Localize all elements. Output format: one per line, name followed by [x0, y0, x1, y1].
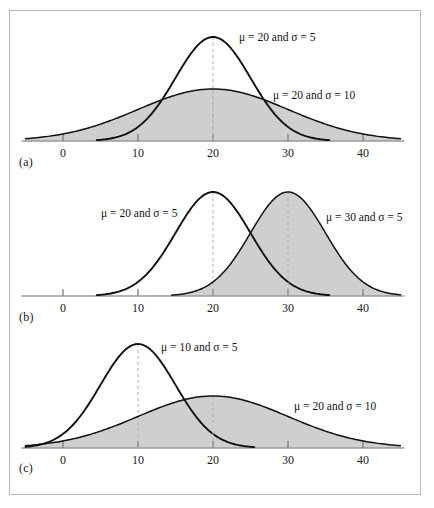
shaded-area-c-1	[26, 396, 401, 448]
x-tick-label-b-0: 0	[60, 301, 66, 315]
panel-letter-b: (b)	[19, 310, 34, 325]
x-tick-label-b-1: 10	[132, 301, 144, 315]
x-tick-label-a-4: 40	[357, 146, 369, 160]
x-tick-label-c-4: 40	[357, 453, 369, 467]
x-tick-label-c-1: 10	[132, 453, 144, 467]
panel-letter-c: (c)	[19, 461, 33, 476]
x-tick-label-c-0: 0	[60, 453, 66, 467]
x-tick-label-c-3: 30	[282, 453, 294, 467]
x-tick-label-c-2: 20	[207, 453, 219, 467]
curve-outline-b-1	[172, 192, 401, 295]
x-tick-label-b-2: 20	[207, 301, 219, 315]
curve-annotation-a-1: μ = 20 and σ = 10	[273, 89, 355, 102]
x-tick-label-a-3: 30	[282, 146, 294, 160]
x-tick-label-b-4: 40	[357, 301, 369, 315]
x-tick-label-a-2: 20	[207, 146, 219, 160]
curve-annotation-c-0: μ = 10 and σ = 5	[161, 341, 238, 354]
panel-canvas-b: 010203040μ = 20 and σ = 5μ = 30 and σ = …	[10, 11, 422, 496]
figure-frame: 010203040μ = 20 and σ = 5μ = 20 and σ = …	[9, 10, 421, 495]
x-tick-label-a-1: 10	[132, 146, 144, 160]
curve-outline-a-1	[26, 89, 401, 139]
shaded-area-b-1	[26, 192, 401, 296]
curve-outline-b-0	[97, 192, 330, 295]
panel-canvas-a: 010203040μ = 20 and σ = 5μ = 20 and σ = …	[10, 11, 422, 496]
curve-annotation-b-0: μ = 20 and σ = 5	[101, 207, 178, 220]
curve-annotation-a-0: μ = 20 and σ = 5	[239, 31, 316, 44]
x-tick-label-b-3: 30	[282, 301, 294, 315]
curve-annotation-b-1: μ = 30 and σ = 5	[326, 211, 403, 224]
panel-letter-a: (a)	[19, 155, 33, 170]
curve-outline-c-1	[26, 396, 401, 446]
curve-annotation-c-1: μ = 20 and σ = 10	[294, 400, 376, 413]
shaded-area-a-1	[26, 89, 401, 141]
panel-canvas-c: 010203040μ = 10 and σ = 5μ = 20 and σ = …	[10, 11, 422, 496]
curve-outline-a-0	[97, 37, 330, 140]
curve-outline-c-0	[26, 344, 255, 447]
x-tick-label-a-0: 0	[60, 146, 66, 160]
